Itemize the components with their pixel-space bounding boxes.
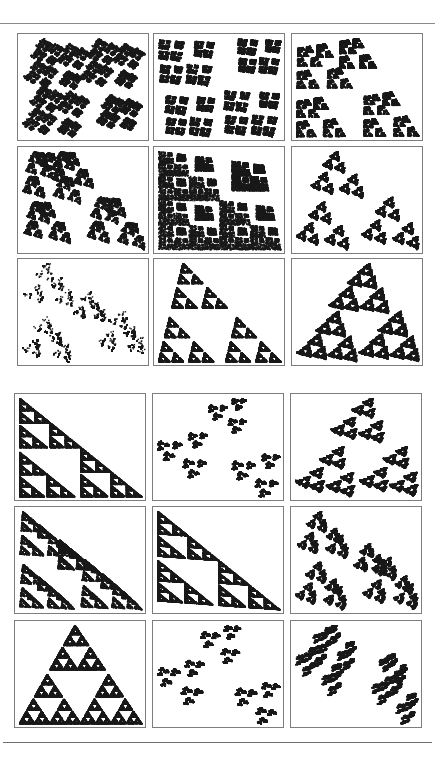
fractal-canvas (291, 394, 421, 500)
fractal-canvas (15, 507, 145, 613)
fractal-figure-block-bottom-6 (290, 506, 422, 614)
bottom-rule (3, 742, 432, 743)
fractal-figure-block-top-7 (17, 258, 149, 366)
fractal-canvas (292, 147, 422, 253)
fractal-canvas (292, 259, 422, 365)
fractal-figure-block-bottom-8 (152, 620, 284, 728)
fractal-figure-block-bottom-9 (290, 620, 422, 728)
fractal-canvas (18, 147, 148, 253)
fractal-figure-block-bottom-4 (14, 506, 146, 614)
fractal-canvas (154, 259, 284, 365)
fractal-figure-block-top-3 (291, 33, 423, 141)
fractal-canvas (18, 34, 148, 140)
fractal-figure-block-top-1 (17, 33, 149, 141)
fractal-figure-block-bottom-2 (152, 393, 284, 501)
fractal-figure-block-top-8 (153, 258, 285, 366)
fractal-canvas (15, 621, 145, 727)
fractal-canvas (292, 34, 422, 140)
fractal-figure-block-top-2 (153, 33, 285, 141)
fractal-figure-block-top-6 (291, 146, 423, 254)
fractal-figure-block-bottom-5 (152, 506, 284, 614)
fractal-canvas (153, 394, 283, 500)
fractal-canvas (15, 394, 145, 500)
fractal-canvas (154, 34, 284, 140)
fractal-figure-block-bottom-1 (14, 393, 146, 501)
fractal-canvas (154, 147, 284, 253)
fractal-canvas (291, 507, 421, 613)
fractal-figure-block-top-5 (153, 146, 285, 254)
fractal-figure-block-top-9 (291, 258, 423, 366)
fractal-canvas (291, 621, 421, 727)
fractal-figure-block-top-4 (17, 146, 149, 254)
fractal-canvas (153, 621, 283, 727)
fractal-canvas (18, 259, 148, 365)
fractal-canvas (153, 507, 283, 613)
top-rule (0, 23, 435, 24)
fractal-figure-block-bottom-7 (14, 620, 146, 728)
fractal-figure-block-bottom-3 (290, 393, 422, 501)
